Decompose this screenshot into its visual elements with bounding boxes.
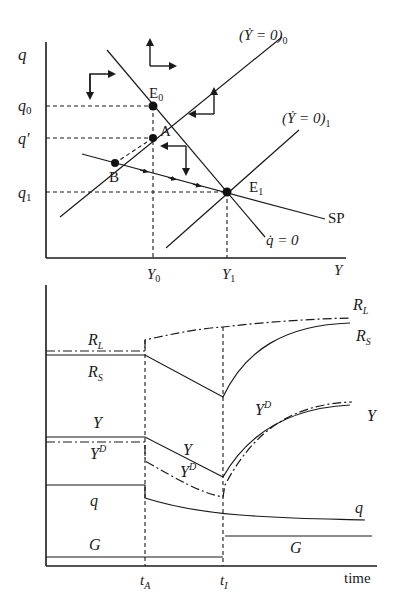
point-E0	[149, 102, 158, 111]
RL-right-label: RL	[352, 296, 369, 316]
ydot-zero-1-label: (Ẏ = 0)1	[282, 110, 330, 129]
YD-mid-label: YD	[180, 461, 197, 480]
phase-diagram-panel: q Y q0 q′ q1 Y0 Y1 (Ẏ = 0)0 (Ẏ = 0)1 q̇ …	[18, 27, 346, 284]
G-left-label: G	[89, 536, 101, 553]
Y-mid-label: Y	[183, 441, 194, 458]
time-axis-label: time	[344, 570, 371, 586]
YD-left-label: YD	[90, 443, 107, 462]
RL-left-label: RL	[87, 331, 104, 351]
sp-label: SP	[328, 210, 345, 226]
G-right-label: G	[290, 539, 302, 556]
point-A	[149, 134, 157, 142]
q1-tick-label: q1	[18, 184, 32, 203]
ydot-zero-0-label: (Ẏ = 0)0	[239, 27, 287, 46]
qdot-zero-label: q̇ = 0	[266, 232, 299, 248]
q0-tick-label: q0	[18, 97, 32, 116]
sp-arrow-2	[168, 178, 174, 180]
q-left-label: q	[90, 492, 98, 510]
qdot-zero-line	[107, 50, 265, 237]
RS-left-label: RS	[87, 363, 103, 383]
RS-right-label: RS	[355, 327, 371, 347]
tA-tick-label: tA	[140, 572, 151, 591]
A-to-B-jump	[115, 138, 153, 163]
arrow-right-icon	[90, 74, 114, 97]
Y-right-label: Y	[367, 407, 378, 424]
B-label: B	[109, 169, 119, 185]
Y-path	[46, 405, 350, 477]
E1-label: E1	[249, 179, 263, 197]
tI-tick-label: tI	[220, 572, 228, 591]
Y-axis-label: Y	[334, 262, 344, 278]
point-B	[111, 159, 119, 167]
Y0-tick-label: Y0	[147, 266, 160, 284]
Y1-tick-label: Y1	[222, 266, 235, 284]
A-label: A	[160, 123, 171, 139]
q-axis-label: q	[18, 45, 27, 64]
point-E1	[223, 188, 232, 197]
E0-label: E0	[149, 85, 163, 103]
qprime-tick-label: q′	[18, 130, 30, 148]
time-paths-panel: RL RS RL RS Y YD Y YD YD Y q q G G tA tI…	[46, 285, 378, 591]
q-right-label: q	[355, 499, 363, 517]
sp-arrow-1	[140, 170, 146, 172]
YD-right-label: YD	[255, 399, 272, 418]
figure-canvas: q Y q0 q′ q1 Y0 Y1 (Ẏ = 0)0 (Ẏ = 0)1 q̇ …	[0, 0, 400, 607]
Y-left-label: Y	[93, 414, 104, 431]
